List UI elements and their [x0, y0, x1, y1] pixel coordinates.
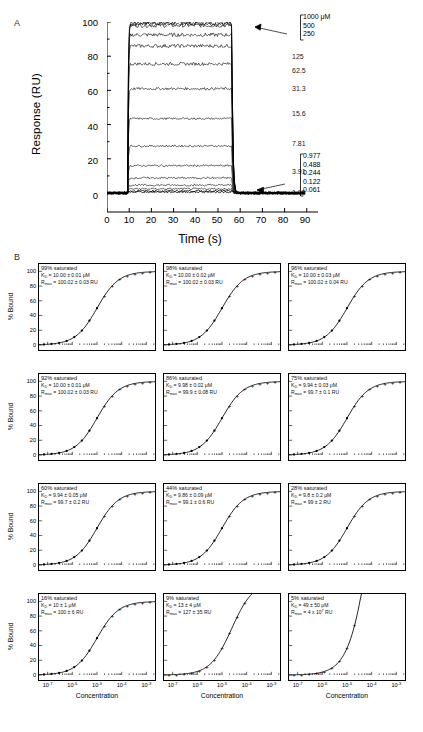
sensorgram-trace	[107, 145, 305, 194]
data-point-marker: +	[376, 493, 380, 499]
data-point-marker: +	[273, 379, 277, 385]
panel-b-y-axis-label: % Bound	[7, 592, 14, 682]
panel-a-curve-label-125: 125	[292, 53, 304, 62]
saturation-label: 86% saturated	[166, 375, 217, 382]
data-point-marker	[198, 336, 200, 338]
data-point-marker: +	[103, 293, 107, 299]
exponent: -3	[398, 681, 402, 686]
data-point-marker	[73, 666, 75, 668]
data-point-marker	[66, 340, 68, 342]
panel-b-y-axis-label: % Bound	[7, 262, 14, 352]
rmax-number: 99.7 ± 0.2	[58, 499, 81, 505]
data-point-marker	[221, 307, 223, 309]
subplot-annotation-box: 60% saturatedKD = 9.94 ± 0.05 μMRmax = 9…	[41, 485, 89, 507]
data-point-marker: +	[175, 672, 179, 678]
data-point-marker	[308, 562, 310, 564]
panel-a-letter: A	[14, 18, 20, 28]
panel-b-ytick-80: 80	[20, 393, 36, 399]
data-point-marker: +	[368, 276, 372, 282]
data-point-marker: +	[273, 269, 277, 275]
data-point-marker: +	[398, 489, 402, 495]
subplot-annotation-box: 5% saturatedKD = 49 ± 50 μMRmax = 4 x 10…	[291, 595, 332, 617]
data-point-marker: +	[307, 671, 311, 677]
panel-b-xtick-1e-6: 10-6	[61, 682, 83, 688]
exponent: -4	[123, 681, 127, 686]
panel-a-sensorgram-svg	[107, 22, 318, 217]
exponent: -4	[248, 681, 252, 686]
data-point-marker	[316, 340, 318, 342]
data-point-marker: +	[118, 386, 122, 392]
data-point-marker: +	[383, 271, 387, 277]
saturation-label: 60% saturated	[41, 485, 89, 492]
data-point-marker: +	[148, 599, 152, 605]
data-point-marker	[183, 562, 185, 564]
panel-a-bottom-bracket-0.488: 0.488	[303, 161, 321, 170]
panel-b-xtick-1e-6: 10-6	[186, 682, 208, 688]
kd-value-label: KD = 49 ± 50 μM	[291, 602, 332, 610]
subplot-annotation-box: 28% saturatedKD = 9.8 ± 0.2 μMRmax = 99 …	[291, 485, 331, 507]
rmax-value-label: Rmax = 127 ± 35 RU	[166, 609, 211, 617]
data-point-marker: +	[126, 383, 130, 389]
data-point-marker	[308, 342, 310, 344]
saturation-label: 98% saturated	[166, 265, 223, 272]
panel-b-ytick-80: 80	[20, 503, 36, 509]
data-point-marker	[168, 453, 170, 455]
panel-b-xtick-1e-4: 10-4	[361, 682, 383, 688]
data-point-marker: +	[376, 273, 380, 279]
data-point-marker: +	[220, 645, 224, 651]
data-point-marker: +	[148, 379, 152, 385]
data-point-marker: +	[141, 380, 145, 386]
data-point-marker: +	[338, 658, 342, 664]
data-point-marker: +	[235, 503, 239, 509]
kd-number: 9.94 ± 0.05	[53, 492, 78, 498]
data-point-marker: +	[228, 630, 232, 636]
data-point-marker	[221, 527, 223, 529]
data-point-marker: +	[360, 503, 364, 509]
data-point-marker	[88, 320, 90, 322]
data-point-marker	[316, 560, 318, 562]
data-point-marker	[66, 670, 68, 672]
panel-a-ytick-20: 20	[72, 155, 98, 166]
data-point-marker	[81, 549, 83, 551]
data-point-marker	[323, 556, 325, 558]
panel-b-ytick-100: 100	[20, 488, 36, 494]
panel-a-ytick-0: 0	[72, 190, 98, 201]
panel-b-ytick-60: 60	[20, 298, 36, 304]
data-point-marker: +	[251, 493, 255, 499]
subplot-annotation-box: 44% saturatedKD = 9.86 ± 0.09 μMRmax = 9…	[166, 485, 214, 507]
data-point-marker: +	[213, 657, 217, 663]
sensorgram-trace	[107, 62, 305, 194]
data-point-marker	[198, 556, 200, 558]
panel-a-bottom-bracket-0.244: 0.244	[303, 169, 321, 178]
data-point-marker: +	[258, 271, 262, 277]
data-point-marker: +	[141, 600, 145, 606]
exponent: -7	[174, 681, 178, 686]
panel-a-top-bracket-500: 500	[303, 22, 330, 31]
panel-b-xtick-1e-5: 10-5	[211, 682, 233, 688]
subplot-annotation-box: 99% saturatedKD = 10.00 ± 0.01 μMRmax = …	[41, 265, 98, 287]
sensorgram-trace	[107, 23, 305, 194]
data-point-marker: +	[190, 670, 194, 676]
data-point-marker: +	[103, 513, 107, 519]
panel-b-ytick-0: 0	[20, 342, 36, 348]
panel-b-subplot-11: 9% saturatedKD = 13 ± 4 μMRmax = 127 ± 3…	[163, 593, 281, 681]
panel-b-x-axis-label: Concentration	[288, 692, 406, 699]
data-point-marker: +	[391, 380, 395, 386]
panel-b-ytick-100: 100	[20, 268, 36, 274]
data-point-marker	[50, 343, 52, 345]
data-point-marker: +	[353, 622, 357, 628]
data-point-marker	[316, 450, 318, 452]
exponent: -6	[199, 681, 203, 686]
data-point-marker: +	[133, 381, 137, 387]
kd-value-label: KD = 9.94 ± 0.03 μM	[291, 382, 339, 390]
panel-a-curve-label-15.6: 15.6	[292, 110, 306, 119]
data-point-marker	[293, 343, 295, 345]
subplot-annotation-box: 96% saturatedKD = 10.00 ± 0.03 μMRmax = …	[291, 265, 348, 287]
kd-number: 9.98 ± 0.02	[178, 382, 203, 388]
data-point-marker	[300, 453, 302, 455]
data-point-marker	[175, 343, 177, 345]
subplot-annotation-box: 9% saturatedKD = 13 ± 4 μMRmax = 127 ± 3…	[166, 595, 211, 617]
data-point-marker: +	[360, 393, 364, 399]
sensorgram-trace	[107, 33, 305, 194]
data-point-marker	[50, 453, 52, 455]
